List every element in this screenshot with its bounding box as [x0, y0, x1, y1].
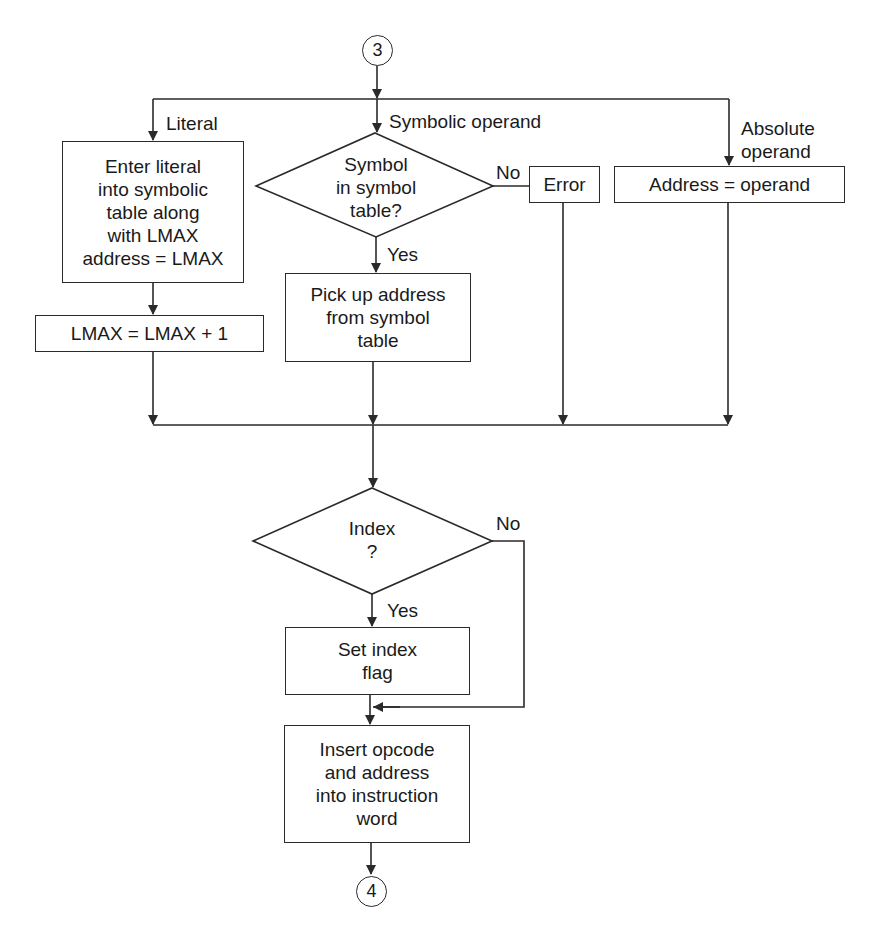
- error-box: Error: [529, 166, 600, 203]
- connector-exit-label: 4: [366, 881, 376, 902]
- edge-label-index-yes: Yes: [387, 599, 418, 622]
- lmax-increment-box: LMAX = LMAX + 1: [35, 315, 264, 352]
- connector-entry-label: 3: [372, 40, 382, 61]
- set-index-flag-box: Set index flag: [285, 627, 470, 695]
- symbol-decision-text: Symbol in symbol table?: [296, 148, 456, 226]
- branch-label-symbolic: Symbolic operand: [389, 110, 541, 133]
- branch-label-absolute: Absolute operand: [741, 117, 815, 163]
- address-operand-box: Address = operand: [614, 166, 845, 203]
- branch-label-literal: Literal: [166, 112, 218, 135]
- enter-literal-box: Enter literal into symbolic table along …: [62, 141, 244, 283]
- edge-label-index-no: No: [496, 512, 520, 535]
- pickup-address-box: Pick up address from symbol table: [285, 273, 471, 362]
- edge-label-symbol-yes: Yes: [387, 243, 418, 266]
- connector-entry: 3: [362, 35, 393, 66]
- insert-opcode-box: Insert opcode and address into instructi…: [284, 725, 470, 843]
- index-decision-text: Index ?: [312, 515, 432, 565]
- edge-label-symbol-no: No: [496, 161, 520, 184]
- connector-exit: 4: [356, 876, 387, 907]
